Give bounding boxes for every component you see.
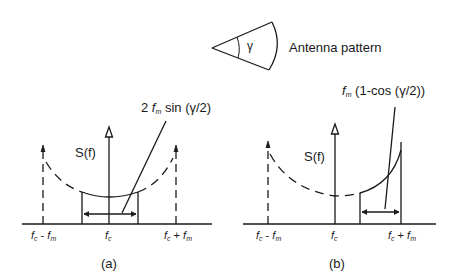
spectrum-curve-dashed-a [46,162,82,192]
antenna-pattern-icon [212,22,277,70]
s-axis-arrow-a [106,127,113,137]
tick-fc-minus-fm-a: fc - fm [31,230,56,242]
tick-fc-plus-fm-b: fc + fm [388,230,416,242]
tick-fc-b: fc [331,230,338,242]
panel-a-plot [22,121,212,224]
annotation-a: 2 fm sin (γ/2) [141,101,211,115]
diagram-canvas [0,0,455,277]
s-f-label-a: S(f) [75,146,96,159]
tick-fc-plus-fm-a: fc + fm [164,230,192,242]
caption-a: (a) [101,257,117,270]
caption-b: (b) [329,257,345,270]
antenna-pattern-label: Antenna pattern [289,41,382,54]
s-f-label-b: S(f) [304,150,325,163]
spectrum-curve-dashed-a2 [138,158,173,192]
annotation-b: fm (1-cos (γ/2)) [342,84,425,98]
tick-fc-minus-fm-b: fc - fm [256,230,281,242]
tick-fc-a: fc [105,230,112,242]
gamma-label: γ [247,40,253,52]
leader-line-b [385,107,395,209]
spectrum-curve-solid-b [360,150,401,193]
s-axis-arrow-b [332,124,339,134]
panel-b-plot [243,107,436,224]
leader-line-a [122,121,166,213]
